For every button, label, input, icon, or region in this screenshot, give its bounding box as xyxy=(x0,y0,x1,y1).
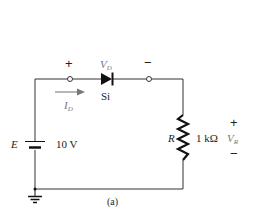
resistor-icon xyxy=(178,115,188,160)
source-value: 10 V xyxy=(56,139,78,150)
resistor-minus-sign: − xyxy=(230,147,238,160)
current-arrow-icon xyxy=(55,89,85,96)
resistor-voltage-subscript: R xyxy=(234,138,238,146)
diode-plus-sign: + xyxy=(65,57,73,70)
diode-minus-sign: − xyxy=(144,56,152,69)
diode-voltage-symbol: V xyxy=(100,58,107,70)
resistor-symbol: R xyxy=(168,133,175,144)
diode-icon xyxy=(101,73,113,86)
resistor-plus-sign: + xyxy=(230,116,238,129)
ground-icon xyxy=(28,188,42,203)
terminal-left xyxy=(68,77,73,82)
resistor-value: 1 kΩ xyxy=(196,133,218,144)
figure-caption: (a) xyxy=(107,197,118,207)
terminal-right xyxy=(147,77,152,82)
current-subscript: D xyxy=(68,105,73,113)
resistor-voltage-label: VR xyxy=(227,133,238,146)
diode-voltage-subscript: D xyxy=(107,64,112,72)
battery-icon xyxy=(25,142,45,148)
current-label: ID xyxy=(64,100,73,113)
diode-voltage-label: VD xyxy=(100,59,112,72)
circuit-diagram xyxy=(0,0,257,224)
resistor-voltage-symbol: V xyxy=(227,132,234,144)
diode-material-label: Si xyxy=(101,91,110,102)
source-symbol: E xyxy=(11,139,18,150)
